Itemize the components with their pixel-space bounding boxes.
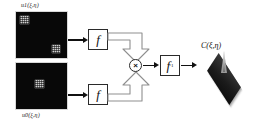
fourier-symbol-bottom: f (96, 88, 100, 101)
fourier-transform-box-top[interactable]: f (88, 29, 108, 50)
correlation-peak-spike (223, 52, 225, 72)
arrowhead-multiplier-to-ift (154, 62, 159, 68)
fourier-transform-box-bottom[interactable]: f (88, 84, 108, 105)
bright-block-bottom-right (52, 45, 61, 53)
wire-input-bottom-to-ft (68, 94, 84, 96)
multiply-node[interactable]: × (129, 59, 142, 72)
inverse-fourier-exponent: -1 (169, 63, 173, 68)
input-top-image (15, 11, 68, 59)
input-bottom-caption: u0(ξ,η) (22, 112, 40, 118)
output-label: C(ξ,η) (201, 41, 221, 50)
correlation-plot (198, 56, 252, 96)
figure-canvas: u1(ξ,η) u0(ξ,η) f f × f-1 (0, 0, 256, 131)
block-arrow-bottom-to-multiplier (106, 69, 158, 103)
input-top-caption: u1(ξ,η) (21, 2, 39, 8)
arrowhead-ift-to-output (192, 62, 197, 68)
fourier-symbol-top: f (96, 33, 100, 46)
multiply-symbol: × (133, 61, 138, 70)
bright-block-center (35, 80, 44, 88)
input-bottom-image (15, 62, 68, 110)
wire-input-top-to-ft (68, 39, 84, 41)
inverse-fourier-transform-box[interactable]: f-1 (160, 55, 180, 76)
bright-block-top-left (20, 16, 29, 24)
